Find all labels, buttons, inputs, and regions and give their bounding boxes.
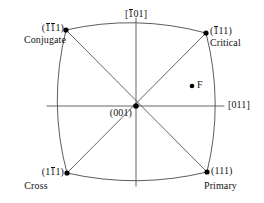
slip-primary-index: (111)	[211, 165, 232, 176]
slip-conjugate-name: Conjugate	[0, 34, 66, 45]
slip-critical-name: Critical	[210, 37, 241, 48]
marker-pole-critical[interactable]	[203, 30, 208, 35]
slip-primary-name: Primary	[204, 180, 237, 191]
slip-critical-index-tail: 11	[219, 25, 229, 36]
marker-pole-primary[interactable]	[204, 169, 209, 174]
slip-critical-index-bar1: 1	[213, 25, 218, 36]
stereographic-projection-figure: [101] [011] (001) (111) Conjugate (111) …	[0, 0, 264, 203]
diagonal-critical-cross	[67, 33, 206, 173]
slip-conjugate-index-bar2: 1	[50, 22, 55, 33]
slip-cross-index-bar1: 1	[50, 166, 55, 177]
label-slip-conjugate: (111)	[2, 22, 64, 33]
marker-pole-conjugate[interactable]	[63, 27, 68, 32]
outline-arc-right	[206, 33, 215, 172]
label-slip-cross: (111)	[2, 166, 64, 177]
slip-cross-index: (111)	[42, 166, 64, 177]
slip-conjugate-index-close: )	[61, 22, 64, 33]
label-center-pole-close: )	[129, 107, 132, 118]
label-slip-primary: (111)	[211, 166, 232, 177]
label-right-direction-rest: 011	[231, 99, 246, 110]
outline-arc-left	[57, 30, 67, 173]
radial-lines	[47, 18, 224, 186]
outline-arc-bottom	[67, 172, 207, 181]
diagonal-conjugate-primary	[66, 30, 207, 172]
marker-pole-cross[interactable]	[64, 170, 69, 175]
label-right-direction-close: ]	[246, 99, 249, 110]
slip-conjugate-index: (111)	[42, 22, 64, 33]
label-point-f: F	[197, 80, 203, 91]
label-right-direction: [011]	[228, 100, 250, 111]
label-center-pole: (001)	[74, 108, 132, 119]
slip-critical-index-close: )	[228, 25, 231, 36]
slip-cross-index-close: )	[61, 166, 64, 177]
slip-cross-index-open: (1	[42, 166, 51, 177]
label-slip-critical: (111)	[210, 25, 232, 36]
label-top-direction-close: ]	[144, 8, 147, 19]
marker-pole-center[interactable]	[133, 103, 139, 109]
label-top-direction-bar: 1	[128, 8, 133, 19]
label-top-direction: [101]	[104, 8, 168, 19]
label-top-direction-rest: 01	[133, 8, 143, 19]
slip-primary-index-tail: 111	[214, 165, 229, 176]
slip-critical-index: (111)	[210, 25, 232, 36]
slip-cross-name: Cross	[8, 180, 64, 191]
slip-primary-index-close: )	[229, 165, 232, 176]
marker-point-f[interactable]	[190, 84, 195, 89]
label-center-pole-rest: 001	[113, 107, 128, 118]
